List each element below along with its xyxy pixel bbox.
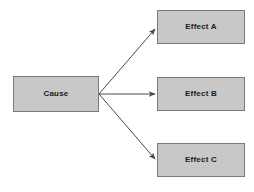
node-effect-a[interactable]: Effect A <box>157 10 245 44</box>
arrow-cause-to-effect-c <box>99 94 155 159</box>
diagram-canvas: Cause Effect A Effect B Effect C <box>0 0 254 192</box>
node-effect-b[interactable]: Effect B <box>157 77 245 111</box>
node-effect-c-label: Effect C <box>185 156 217 164</box>
arrow-cause-to-effect-a <box>99 29 155 94</box>
node-effect-c[interactable]: Effect C <box>157 143 245 177</box>
node-effect-b-label: Effect B <box>185 90 217 98</box>
node-cause-label: Cause <box>43 90 68 98</box>
node-effect-a-label: Effect A <box>185 23 217 31</box>
node-cause[interactable]: Cause <box>13 76 99 112</box>
